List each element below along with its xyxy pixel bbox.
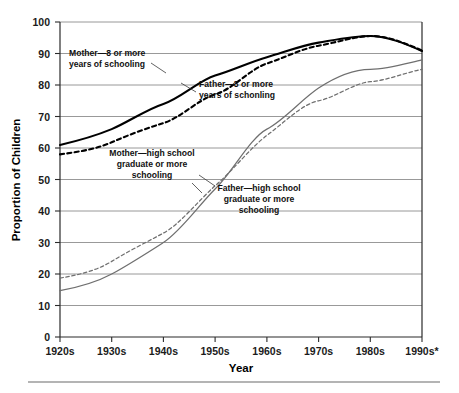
leader-mother-8yr	[151, 63, 166, 73]
series-line-father-high-school-graduate	[60, 69, 422, 278]
annotation-father-hs-line3: schooling	[239, 205, 280, 215]
x-tickmarks	[60, 337, 422, 342]
x-tick-label-1950s: 1950s	[200, 345, 229, 357]
y-tick-label-10: 10	[38, 300, 50, 312]
annotation-father-high-school: Father—high school graduate or more scho…	[217, 183, 300, 215]
annotation-mother-hs-line1: Mother—high school	[109, 148, 194, 158]
annotation-mother-high-school: Mother—high school graduate or more scho…	[109, 148, 194, 180]
annotation-father-hs-line1: Father—high school	[217, 183, 300, 193]
annotation-father-8-or-more-years: Father—8 or more years of schonling	[199, 79, 275, 100]
y-tickmarks	[55, 22, 60, 337]
annotation-father-hs-line2: graduate or more	[224, 194, 295, 204]
y-tick-label-0: 0	[44, 331, 50, 343]
y-tick-label-100: 100	[32, 16, 50, 28]
y-tick-label-60: 60	[38, 142, 50, 154]
y-axis-title: Proportion of Children	[10, 119, 22, 242]
annotation-mother-hs-line3: schooling	[132, 170, 173, 180]
x-tick-label-1970s: 1970s	[304, 345, 333, 357]
annotation-mother-8yr-line1: Mother—8 or more	[69, 48, 146, 58]
annotation-father-8yr-line2: years of schonling	[199, 90, 275, 100]
y-tick-label-30: 30	[38, 237, 50, 249]
y-tick-label-70: 70	[38, 111, 50, 123]
annotation-father-8yr-line1: Father—8 or more	[199, 79, 273, 89]
leader-father-hs	[192, 183, 202, 193]
y-tick-label-20: 20	[38, 268, 50, 280]
x-axis-title: Year	[229, 362, 254, 374]
x-tick-label-1920s: 1920s	[45, 345, 74, 357]
y-tick-label-80: 80	[38, 79, 50, 91]
annotation-mother-8-or-more-years: Mother—8 or more years of schooling	[69, 48, 146, 69]
leader-mother-hs	[199, 175, 215, 186]
x-tick-label-1990s: 1990s*	[405, 345, 439, 357]
y-tick-label-90: 90	[38, 48, 50, 60]
x-tick-label-1960s: 1960s	[252, 345, 281, 357]
y-tick-labels: 100 90 80 70 60 50 40 30 20 10 0	[32, 16, 50, 343]
annotation-mother-8yr-line2: years of schooling	[69, 59, 145, 69]
x-tick-labels: 1920s 1930s 1940s 1950s 1960s 1970s 1980…	[45, 345, 439, 357]
x-tick-label-1930s: 1930s	[97, 345, 126, 357]
series-group	[60, 36, 422, 291]
x-tick-label-1940s: 1940s	[149, 345, 178, 357]
annotation-mother-hs-line2: graduate or more	[117, 159, 188, 169]
x-tick-label-1980s: 1980s	[356, 345, 385, 357]
y-tick-label-40: 40	[38, 205, 50, 217]
chart-figure: 100 90 80 70 60 50 40 30 20 10 0 1920s 1	[0, 0, 459, 393]
y-tick-label-50: 50	[38, 174, 50, 186]
line-chart: 100 90 80 70 60 50 40 30 20 10 0 1920s 1	[0, 0, 459, 393]
